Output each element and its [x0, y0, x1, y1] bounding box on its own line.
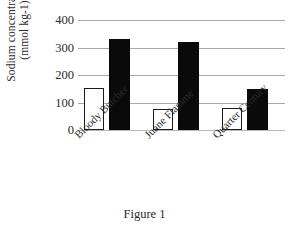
bar-series-group — [78, 20, 285, 130]
gridline-baseline-0 — [78, 130, 285, 131]
y-axis-title: Sodium concentration (mmol kg-1) — [0, 0, 36, 100]
y-tick-400: 400 — [40, 14, 74, 26]
plot-area — [78, 20, 285, 130]
x-axis-category-labels: Bloody Butcher Juane Flamme Quarter Cent… — [78, 132, 285, 198]
y-axis-tick-labels: 400 300 200 100 0 — [38, 20, 74, 130]
y-tick-200: 200 — [40, 69, 74, 81]
figure-caption: Figure 1 — [0, 207, 289, 222]
figure-container: Sodium concentration (mmol kg-1) 400 300… — [0, 0, 289, 232]
y-tick-0: 0 — [40, 124, 74, 136]
y-axis-title-line2: (mmol kg-1) — [18, 0, 31, 60]
y-tick-100: 100 — [40, 97, 74, 109]
bar-filled-juane-flamme — [178, 42, 199, 130]
y-tick-300: 300 — [40, 42, 74, 54]
y-axis-title-line1: Sodium concentration — [5, 0, 18, 82]
